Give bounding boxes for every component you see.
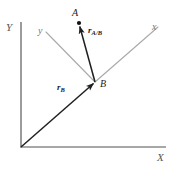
vector-rab-label: rA/B [88,26,102,36]
point-a-marker [77,21,81,25]
vector-diagram-figure: Y X y x A B rA/B rB [0,0,176,170]
vector-rab-subscript: A/B [92,29,103,36]
point-a-label: A [72,8,78,18]
global-y-axis-label: Y [6,22,12,33]
vector-rb-subscript: B [61,86,65,93]
point-b-label: B [100,79,106,89]
local-x-axis-label: x [152,22,156,32]
global-x-axis-label: X [157,152,164,163]
local-x-axis-line [95,27,158,82]
local-y-axis-label: y [38,26,42,36]
vector-rb-label: rB [57,83,65,93]
